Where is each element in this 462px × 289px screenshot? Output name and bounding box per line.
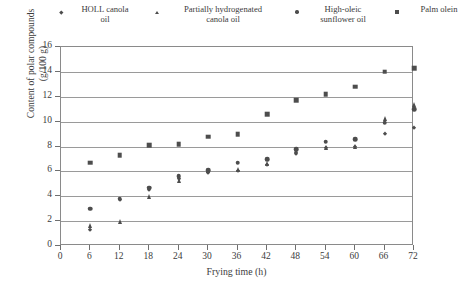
circle-marker-icon — [206, 168, 211, 173]
legend-label: High-oleic sunflower oil — [304, 4, 382, 24]
square-marker-icon — [265, 112, 270, 117]
legend-entry[interactable]: Palm olein — [392, 4, 462, 18]
triangle-marker-icon — [236, 167, 240, 172]
triangle-marker-icon — [88, 223, 92, 228]
x-tick — [89, 245, 90, 250]
circle-marker-icon — [88, 206, 93, 211]
x-axis-title: Frying time (h) — [60, 266, 413, 277]
data-point — [89, 228, 92, 231]
circle-marker-icon — [265, 157, 270, 162]
data-point — [382, 121, 387, 126]
x-tick — [413, 245, 414, 250]
legend-marker — [56, 6, 66, 18]
data-point — [147, 143, 152, 148]
circle-marker-icon — [235, 160, 240, 165]
y-tick-label: 6 — [47, 166, 52, 176]
gridline — [61, 122, 412, 123]
x-tick-label: 36 — [232, 252, 242, 262]
circle-marker-icon — [412, 107, 417, 112]
x-tick — [237, 245, 238, 250]
data-point — [176, 142, 181, 147]
x-tick — [207, 245, 208, 250]
x-tick-label: 18 — [144, 252, 154, 262]
x-tick — [266, 245, 267, 250]
x-tick-label: 48 — [291, 252, 301, 262]
square-marker-icon — [118, 153, 123, 158]
x-tick-label: 24 — [173, 252, 183, 262]
square-marker-icon — [294, 98, 299, 103]
x-tick-label: 30 — [202, 252, 212, 262]
square-marker-icon — [353, 85, 358, 90]
triangle-marker-icon — [324, 145, 328, 150]
square-marker-icon — [323, 92, 328, 97]
circle-marker-icon — [294, 147, 299, 152]
legend-label: HOLL canola oil — [68, 4, 142, 24]
data-point — [147, 195, 151, 200]
y-tick-label: 8 — [47, 141, 52, 151]
x-tick — [354, 245, 355, 250]
square-marker-icon — [382, 70, 387, 75]
triangle-marker-icon — [155, 11, 159, 14]
data-point — [235, 132, 240, 137]
data-point — [176, 174, 181, 179]
data-point — [294, 98, 299, 103]
data-point — [265, 157, 270, 162]
x-tick-label: 72 — [408, 252, 418, 262]
data-point — [353, 137, 358, 142]
triangle-marker-icon — [353, 144, 357, 149]
x-tick-label: 60 — [349, 252, 359, 262]
data-point — [206, 168, 211, 173]
legend-entry[interactable]: Partially hydrogenated canola oil — [152, 4, 282, 24]
gridline — [61, 97, 412, 98]
circle-marker-icon — [382, 121, 387, 126]
x-tick — [178, 245, 179, 250]
y-axis-title: Content of polar compounds (g/100 g) — [25, 0, 48, 159]
data-point — [324, 145, 328, 150]
y-tick-label: 0 — [47, 240, 52, 250]
data-point — [118, 153, 123, 158]
square-marker-icon — [88, 160, 93, 165]
triangle-marker-icon — [177, 178, 181, 183]
square-marker-icon — [235, 132, 240, 137]
x-tick — [384, 245, 385, 250]
data-point — [353, 144, 357, 149]
legend-marker — [392, 6, 402, 18]
legend-label: Palm olein — [404, 4, 462, 14]
x-tick-label: 66 — [379, 252, 389, 262]
square-marker-icon — [147, 143, 152, 148]
x-tick-label: 12 — [114, 252, 124, 262]
plot-area — [60, 46, 413, 245]
chart-legend: HOLL canola oilPartially hydrogenated ca… — [56, 4, 426, 40]
x-tick — [119, 245, 120, 250]
y-tick-label: 2 — [47, 215, 52, 225]
data-point — [88, 160, 93, 165]
legend-entry[interactable]: High-oleic sunflower oil — [292, 4, 382, 24]
square-marker-icon — [412, 66, 417, 71]
data-point — [412, 126, 415, 129]
data-point — [412, 107, 417, 112]
data-point — [265, 112, 270, 117]
x-tick-label: 0 — [58, 252, 63, 262]
legend-marker — [292, 6, 302, 18]
circle-marker-icon — [118, 196, 123, 201]
data-point — [206, 134, 211, 139]
data-point — [383, 132, 386, 135]
x-tick-label: 6 — [87, 252, 92, 262]
square-marker-icon — [395, 10, 399, 14]
x-tick — [295, 245, 296, 250]
data-point — [147, 185, 152, 190]
data-point — [323, 139, 328, 144]
gridline — [61, 72, 412, 73]
diamond-marker-icon — [412, 125, 417, 130]
circle-marker-icon — [176, 174, 181, 179]
gridline — [61, 147, 412, 148]
x-tick-label: 42 — [261, 252, 271, 262]
gridline — [61, 221, 412, 222]
data-point — [177, 179, 181, 184]
x-tick — [325, 245, 326, 250]
legend-entry[interactable]: HOLL canola oil — [56, 4, 142, 24]
gridline — [61, 196, 412, 197]
triangle-marker-icon — [118, 219, 122, 224]
y-tick-label: 4 — [47, 191, 52, 201]
